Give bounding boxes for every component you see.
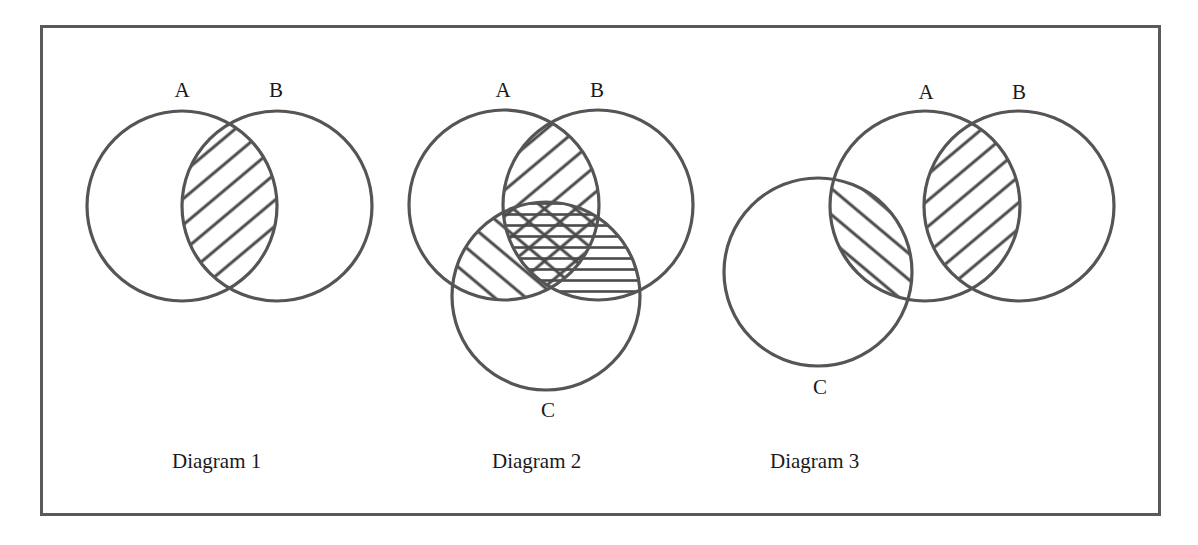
diagram-1: A B Diagram 1 [80,78,380,473]
diagram-3: A B C Diagram 3 [700,80,1150,473]
diagram-caption: Diagram 1 [172,449,261,473]
set-c-label: C [813,375,827,399]
set-b-label: B [269,78,283,102]
diagram-caption: Diagram 3 [770,449,859,473]
set-b-label: B [1012,80,1026,104]
set-c-label: C [541,398,555,422]
set-a-label: A [174,78,190,102]
region-a-and-b-hatch [700,100,1150,400]
set-a-label: A [495,78,511,102]
diagram-2: A B C Diagram 2 [400,78,700,473]
diagram-caption: Diagram 2 [492,449,581,473]
set-a-label: A [918,80,934,104]
venn-figure: A B Diagram 1 A B C Diagram 2 [0,0,1198,545]
set-b-label: B [590,78,604,102]
region-a-and-c-hatch [700,100,1150,400]
